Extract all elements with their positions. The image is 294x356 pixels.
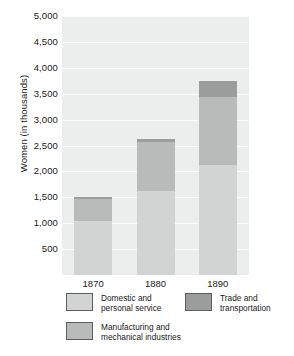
legend-swatch-domestic-and-personal-service xyxy=(66,293,93,311)
legend-label-domestic-and-personal-service: Domestic and personal service xyxy=(101,293,161,313)
legend-label-manufacturing-and-mechanical-industries: Manufacturing and mechanical industries xyxy=(101,322,181,342)
bar-segment xyxy=(137,191,175,275)
x-tick-label-1890: 1890 xyxy=(188,278,248,289)
y-tick-label: 1,500 xyxy=(12,192,58,202)
bar-segment xyxy=(199,165,237,275)
y-tick-label: 3,500 xyxy=(12,89,58,99)
bar-segment xyxy=(74,199,112,221)
chart-figure: Women (in thousands) 5001,0001,5002,0002… xyxy=(0,0,294,356)
legend-label-trade-and-transportation: Trade and transportation xyxy=(220,293,271,313)
gridline-5000 xyxy=(62,16,249,17)
x-tick-label-1870: 1870 xyxy=(63,278,123,289)
bar-segment xyxy=(74,221,112,275)
bar-segment xyxy=(199,97,237,165)
y-tick-label: 2,000 xyxy=(12,166,58,176)
y-tick-label: 500 xyxy=(12,244,58,254)
y-tick-label: 4,000 xyxy=(12,63,58,73)
bar-1870[interactable] xyxy=(74,197,112,275)
legend-swatch-trade-and-transportation xyxy=(185,293,212,311)
chart-legend: Domestic and personal service Manufactur… xyxy=(66,293,290,351)
legend-swatch-manufacturing-and-mechanical-industries xyxy=(66,322,93,340)
legend-item-trade-and-transportation[interactable]: Trade and transportation xyxy=(185,293,271,313)
plot-area xyxy=(62,16,249,275)
y-tick-label: 1,000 xyxy=(12,218,58,228)
y-tick-label: 5,000 xyxy=(12,11,58,21)
legend-item-manufacturing-and-mechanical-industries[interactable]: Manufacturing and mechanical industries xyxy=(66,322,181,342)
bar-1890[interactable] xyxy=(199,81,237,275)
y-tick-label: 4,500 xyxy=(12,37,58,47)
bar-segment xyxy=(137,142,175,191)
x-tick-label-1880: 1880 xyxy=(126,278,186,289)
gridline-4500 xyxy=(62,42,249,43)
y-tick-label: 2,500 xyxy=(12,141,58,151)
bar-segment xyxy=(199,81,237,98)
gridline-4000 xyxy=(62,68,249,69)
bar-1880[interactable] xyxy=(137,139,175,275)
legend-item-domestic-and-personal-service[interactable]: Domestic and personal service xyxy=(66,293,161,313)
y-tick-label: 3,000 xyxy=(12,115,58,125)
